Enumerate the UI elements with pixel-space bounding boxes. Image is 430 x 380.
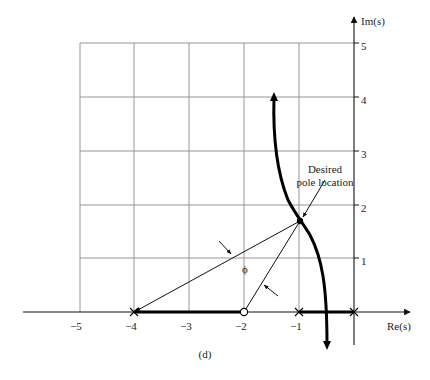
annotation-desired: Desired bbox=[308, 163, 343, 175]
x-tick-label: −3 bbox=[180, 320, 192, 332]
y-tick-label: 1 bbox=[361, 255, 367, 267]
x-tick-label: −4 bbox=[125, 320, 137, 332]
y-tick-label: 5 bbox=[361, 40, 367, 52]
x-tick-label: −1 bbox=[290, 320, 302, 332]
figure-caption: (d) bbox=[199, 348, 212, 361]
annotation-pole-location: pole location bbox=[296, 176, 354, 188]
angle-lines bbox=[136, 221, 300, 312]
zero-marker bbox=[240, 308, 247, 315]
x-axis-label: Re(s) bbox=[387, 320, 411, 333]
y-tick-label: 4 bbox=[361, 94, 367, 106]
y-tick-label: 3 bbox=[361, 148, 367, 160]
y-tick-label: 2 bbox=[361, 202, 367, 214]
angle-phi-label: ϕ bbox=[242, 263, 248, 275]
y-axis-label: Im(s) bbox=[361, 15, 385, 28]
desired-pole-marker bbox=[297, 218, 303, 224]
root-locus-figure: −5 −4 −3 −2 −1 1 2 3 4 5 Re(s) Im(s) Des… bbox=[0, 0, 430, 380]
x-tick-label: −5 bbox=[70, 320, 82, 332]
x-tick-label: −2 bbox=[235, 320, 247, 332]
